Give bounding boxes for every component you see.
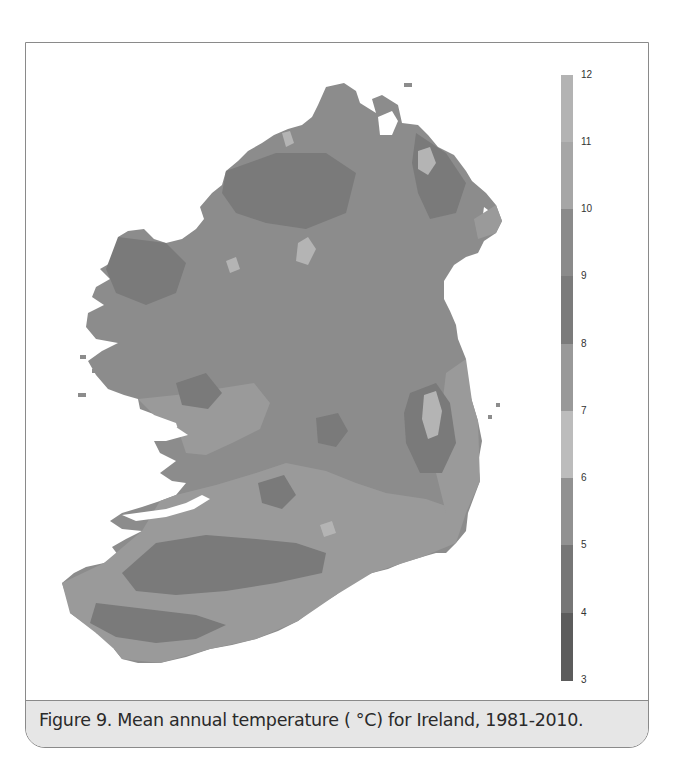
temperature-legend: 12 11 10 9 8 7 6 5 4 3 bbox=[561, 75, 621, 685]
legend-label-11: 11 bbox=[581, 136, 591, 147]
map-area bbox=[26, 43, 647, 704]
legend-label-10: 10 bbox=[581, 203, 592, 214]
figure-frame: 12 11 10 9 8 7 6 5 4 3 Figure 9. Mean an… bbox=[25, 42, 649, 748]
legend-band-6-7 bbox=[561, 411, 573, 478]
legend-label-3: 3 bbox=[581, 674, 587, 685]
legend-label-4: 4 bbox=[581, 607, 587, 618]
legend-label-8: 8 bbox=[581, 338, 587, 349]
legend-label-5: 5 bbox=[581, 539, 587, 550]
legend-band-5-6 bbox=[561, 478, 573, 545]
caption-bar: Figure 9. Mean annual temperature ( °C) … bbox=[26, 700, 648, 747]
legend-label-7: 7 bbox=[581, 405, 587, 416]
legend-label-9: 9 bbox=[581, 270, 587, 281]
legend-label-12: 12 bbox=[581, 69, 592, 80]
legend-band-10-11 bbox=[561, 142, 573, 209]
legend-band-3-4 bbox=[561, 613, 573, 681]
legend-band-11-12 bbox=[561, 75, 573, 142]
figure-caption: Figure 9. Mean annual temperature ( °C) … bbox=[39, 710, 583, 730]
legend-band-7-8 bbox=[561, 344, 573, 411]
legend-band-8-9 bbox=[561, 276, 573, 344]
legend-color-bar bbox=[561, 75, 573, 681]
legend-band-9-10 bbox=[561, 209, 573, 276]
ireland-temperature-map bbox=[26, 43, 647, 704]
legend-band-4-5 bbox=[561, 545, 573, 613]
legend-label-6: 6 bbox=[581, 472, 587, 483]
